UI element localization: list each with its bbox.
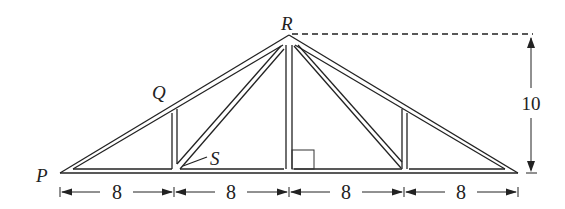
segment-label-4: 8 <box>456 181 466 203</box>
diag-right-b <box>298 45 402 162</box>
point-label-r: R <box>280 13 293 34</box>
base-dimensions <box>60 187 518 197</box>
point-label-q: Q <box>152 82 166 103</box>
segment-label-3: 8 <box>341 181 351 203</box>
top-chord-left-outer <box>60 35 289 173</box>
segment-label-2: 8 <box>226 181 236 203</box>
arrow-down-icon <box>527 161 535 172</box>
point-label-p: P <box>35 165 48 186</box>
top-chord-right-outer <box>289 35 518 173</box>
top-chord-right-inner <box>295 45 505 169</box>
diag-left-a <box>177 46 281 164</box>
height-label: 10 <box>522 93 541 114</box>
truss-diagram: 10 8 8 8 8 P Q R S <box>0 0 565 209</box>
segment-label-1: 8 <box>112 181 122 203</box>
arrow-up-icon <box>527 37 535 48</box>
truss-members <box>60 35 518 173</box>
top-chord-left-inner <box>73 45 283 169</box>
right-angle-marker <box>292 150 314 169</box>
diag-left-b <box>180 49 284 169</box>
point-label-s: S <box>210 148 220 169</box>
